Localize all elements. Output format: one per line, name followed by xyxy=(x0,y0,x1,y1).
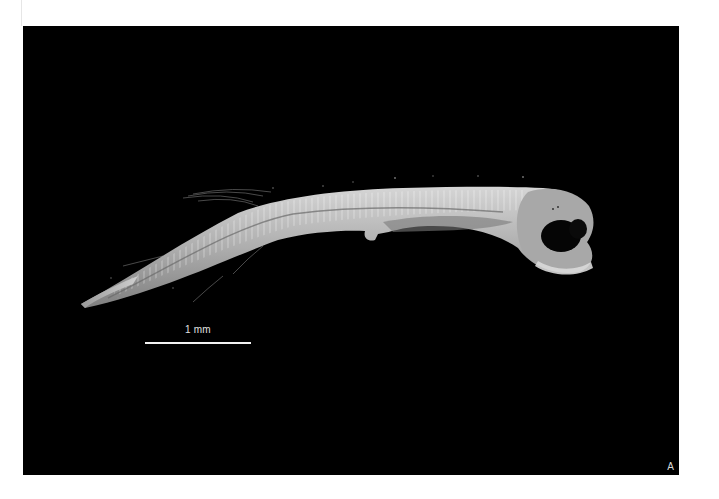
micrograph-panel: 1 mm A xyxy=(23,26,679,475)
specimen-image xyxy=(23,26,679,475)
scale-bar xyxy=(145,342,251,344)
panel-label: A xyxy=(667,461,674,472)
page-edge-line xyxy=(21,0,22,26)
scale-bar-label: 1 mm xyxy=(145,324,251,335)
